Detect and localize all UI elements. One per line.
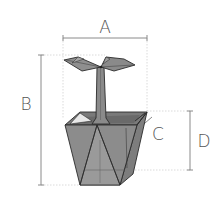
- dimension-b: B: [20, 55, 44, 185]
- leaf-node: [100, 66, 103, 69]
- label-a: A: [99, 17, 111, 37]
- label-d: D: [197, 131, 210, 151]
- pot-plant-dimension-diagram: A B D C: [0, 0, 215, 198]
- label-b: B: [20, 94, 31, 114]
- dimension-d: D: [187, 111, 211, 170]
- dimension-a: A: [63, 17, 147, 41]
- label-c: C: [152, 124, 164, 144]
